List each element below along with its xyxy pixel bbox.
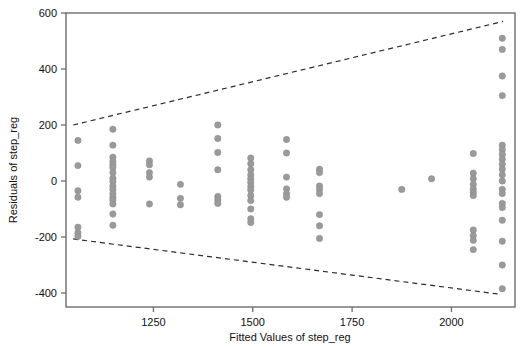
y-axis-title: Residuals of step_reg [7,117,19,223]
scatter-point [499,35,505,41]
scatter-point [248,197,254,203]
x-tick-label: 1750 [340,316,364,328]
scatter-point [215,200,221,206]
scatter-point [215,167,221,173]
scatter-point [499,46,505,52]
chart-container: -400-2000200400600 1250150017502000 Resi… [0,0,532,347]
scatter-point [499,178,505,184]
funnel-band-lines [73,21,503,294]
lower-funnel-band [73,239,501,294]
x-tick-label: 2000 [439,316,463,328]
scatter-point [75,194,81,200]
scatter-point [283,136,289,142]
scatter-point [499,262,505,268]
scatter-point [110,126,116,132]
scatter-point [470,237,476,243]
scatter-point [316,169,322,175]
scatter-point [248,219,254,225]
scatter-point [283,150,289,156]
residual-scatter-plot: -400-2000200400600 1250150017502000 Resi… [0,0,532,347]
y-tick-label: 0 [51,175,57,187]
scatter-point [499,190,505,196]
scatter-point [110,211,116,217]
y-tick-label: 600 [39,7,57,19]
scatter-point [110,222,116,228]
scatter-point [499,92,505,98]
scatter-point [428,176,434,182]
scatter-point [499,238,505,244]
y-tick-label: -400 [35,287,57,299]
scatter-point [248,160,254,166]
scatter-point [146,162,152,168]
scatter-point [177,181,183,187]
scatter-point [499,286,505,292]
scatter-point [470,150,476,156]
scatter-point [248,206,254,212]
scatter-point [177,195,183,201]
x-axis-title: Fitted Values of step_reg [229,331,350,343]
scatter-point [215,135,221,141]
x-tick-label: 1250 [141,316,165,328]
scatter-point [399,186,405,192]
scatter-point [499,172,505,178]
scatter-point [470,246,476,252]
scatter-point [316,190,322,196]
scatter-point [110,142,116,148]
scatter-point [316,235,322,241]
scatter-point [75,162,81,168]
x-axis-ticks: 1250150017502000 [141,307,463,328]
scatter-point [283,174,289,180]
y-tick-label: -200 [35,231,57,243]
scatter-point [215,149,221,155]
scatter-point [110,201,116,207]
scatter-point [146,174,152,180]
scatter-point [499,73,505,79]
scatter-point [499,204,505,210]
y-tick-label: 400 [39,63,57,75]
scatter-point [470,192,476,198]
scatter-points [75,35,506,292]
scatter-point [283,194,289,200]
y-tick-label: 200 [39,119,57,131]
scatter-point [499,217,505,223]
scatter-point [75,233,81,239]
y-axis-ticks: -400-2000200400600 [35,7,66,299]
scatter-point [146,201,152,207]
x-tick-label: 1500 [241,316,265,328]
scatter-point [215,122,221,128]
plot-frame [66,13,515,307]
scatter-point [75,137,81,143]
scatter-point [316,211,322,217]
scatter-point [316,223,322,229]
scatter-point [75,188,81,194]
upper-funnel-band [73,21,503,125]
scatter-point [177,202,183,208]
